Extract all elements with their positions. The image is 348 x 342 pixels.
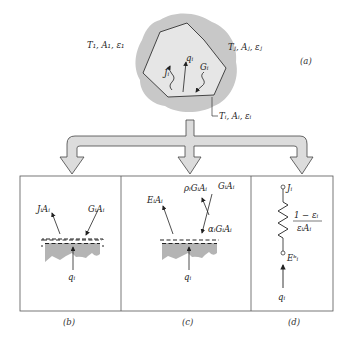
- resistance-denominator: εᵢAᵢ: [297, 223, 311, 233]
- label-G: Gᵢ: [200, 62, 209, 72]
- label-surface-i: Tᵢ, Aᵢ, εᵢ: [219, 111, 252, 121]
- label-J: Jᵢ: [162, 68, 169, 78]
- label-GA: GᵢAᵢ: [218, 181, 235, 191]
- caption-d: (d): [288, 317, 300, 327]
- panel-d: Jᵢ 1 − εᵢ εᵢAᵢ Eᵇᵢ qᵢ (d): [278, 183, 322, 327]
- panel-c: EᵢAᵢ ρᵢGᵢAᵢ GᵢAᵢ αᵢGᵢAᵢ qᵢ (c): [146, 181, 235, 327]
- label-J: Jᵢ: [285, 183, 292, 193]
- panel-b: JᵢAᵢ GᵢAᵢ qᵢ (b): [35, 204, 105, 327]
- label-EA: EᵢAᵢ: [146, 195, 163, 205]
- caption-a: (a): [300, 56, 312, 66]
- label-alphaGA: αᵢGᵢAᵢ: [208, 224, 232, 234]
- label-surface-j: Tⱼ, Aⱼ, εⱼ: [228, 42, 263, 52]
- label-GA: GᵢAᵢ: [88, 204, 105, 214]
- panel-a: Jᵢ qᵢ Gᵢ T₁, A₁, ε₁ Tⱼ, Aⱼ, εⱼ Tᵢ, Aᵢ, ε…: [87, 13, 312, 121]
- label-JA: JᵢAᵢ: [35, 204, 50, 214]
- branch-arrow: [60, 120, 313, 174]
- label-q: qᵢ: [278, 292, 285, 302]
- label-surface-1: T₁, A₁, ε₁: [87, 40, 124, 50]
- label-Eb: Eᵇᵢ: [286, 253, 299, 263]
- label-q: qᵢ: [68, 272, 75, 282]
- reflection-arrow: [202, 198, 209, 215]
- resistor: [278, 202, 288, 238]
- label-q: qᵢ: [184, 272, 191, 282]
- node-Eb: [281, 251, 285, 255]
- resistance-numerator: 1 − εᵢ: [294, 210, 318, 220]
- node-J: [281, 185, 285, 189]
- emission-arrow: [163, 206, 173, 234]
- label-rhoGA: ρᵢGᵢAᵢ: [183, 183, 207, 193]
- surface-shape: [162, 243, 217, 260]
- caption-c: (c): [182, 317, 193, 327]
- label-q: qᵢ: [186, 53, 193, 63]
- caption-b: (b): [63, 317, 75, 327]
- radiation-diagram: Jᵢ qᵢ Gᵢ T₁, A₁, ε₁ Tⱼ, Aⱼ, εⱼ Tᵢ, Aᵢ, ε…: [0, 0, 348, 342]
- surface-shape: [45, 243, 100, 262]
- radiosity-arrow: [52, 213, 60, 234]
